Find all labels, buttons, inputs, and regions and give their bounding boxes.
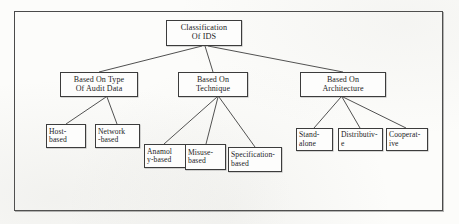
- node-based-on-architecture[interactable]: Based On Architecture: [300, 72, 386, 97]
- node-network-based[interactable]: Network -based: [95, 124, 140, 148]
- node-label-line2: -based: [96, 136, 139, 144]
- node-cooperative[interactable]: Cooperat- ive: [386, 128, 428, 151]
- node-specification-based[interactable]: Specification- based: [228, 147, 282, 172]
- node-label-line2: y-based: [145, 156, 185, 164]
- node-based-on-type-of-audit-data[interactable]: Based On Type Of Audit Data: [60, 72, 138, 97]
- node-stand-alone[interactable]: Stand- alone: [296, 128, 333, 151]
- node-label-line2: Of Audit Data: [76, 85, 123, 94]
- node-label-line2: based: [186, 157, 225, 165]
- node-label-line2: alone: [297, 140, 332, 148]
- node-classification-of-ids[interactable]: Classification Of IDS: [166, 20, 242, 46]
- node-label-line2: Architecture: [322, 85, 363, 94]
- scanned-diagram-page: Classification Of IDS Based On Type Of A…: [0, 0, 459, 224]
- node-label-line2: Of IDS: [192, 33, 216, 42]
- node-label-line2: ive: [387, 140, 427, 148]
- node-label-line2: based: [47, 136, 85, 144]
- node-anamoly-based[interactable]: Anamol y-based: [144, 144, 186, 168]
- node-distributive[interactable]: Distributiv- e: [338, 128, 383, 151]
- node-label-line2: Technique: [196, 85, 230, 94]
- node-label-line2: based: [229, 160, 281, 168]
- node-label-line2: e: [339, 140, 382, 148]
- node-based-on-technique[interactable]: Based On Technique: [178, 72, 248, 97]
- node-label-line1: Distributiv-: [339, 131, 382, 139]
- node-misuse-based[interactable]: Misuse- based: [185, 144, 226, 170]
- node-host-based[interactable]: Host- based: [46, 124, 86, 148]
